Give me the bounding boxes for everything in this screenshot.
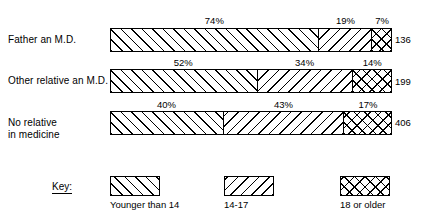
row-total-father-an-md: 136 [395,34,411,45]
bar-segment-18-or-older [371,29,391,51]
bar-segment-younger-than-14 [111,112,223,134]
row-total-no-relative-in-medicine: 406 [395,117,411,128]
value-label-row1-seg0: 52% [174,57,193,68]
value-label-row2-seg0: 40% [157,99,176,110]
bar-row-other-relative-an-md [110,69,392,93]
bar-segment-14-17 [318,29,371,51]
legend-label-14-17: 14-17 [224,199,248,210]
row-label-no-relative-in-medicine: No relative in medicine [8,117,60,140]
value-label-row2-seg2: 17% [359,99,378,110]
value-label-row0-seg2: 7% [375,15,389,26]
bar-segment-18-or-older [343,112,391,134]
value-label-row1-seg1: 34% [295,57,314,68]
stacked-bar-chart: Father an M.D. 74% 19% 7% 136 Other rela… [0,0,424,222]
legend-label-younger-than-14: Younger than 14 [110,199,179,210]
legend-label-18-or-older: 18 or older [340,199,385,210]
value-label-row0-seg1: 19% [336,15,355,26]
row-total-other-relative-an-md: 199 [395,76,411,87]
bar-segment-14-17 [223,112,343,134]
bar-segment-18-or-older [352,70,391,92]
bar-segment-14-17 [257,70,352,92]
legend-swatch-18-or-older [340,176,390,196]
legend-swatch-14-17 [224,176,274,196]
row-label-other-relative-an-md: Other relative an M.D. [8,75,108,87]
key-title: Key: [52,181,72,194]
bar-row-no-relative-in-medicine [110,111,392,135]
bar-segment-younger-than-14 [111,70,257,92]
bar-segment-younger-than-14 [111,29,318,51]
bar-row-father-an-md [110,28,392,52]
legend-swatch-younger-than-14 [110,176,160,196]
value-label-row2-seg1: 43% [274,99,293,110]
row-label-father-an-md: Father an M.D. [8,34,76,46]
value-label-row0-seg0: 74% [205,15,224,26]
value-label-row1-seg2: 14% [363,57,382,68]
